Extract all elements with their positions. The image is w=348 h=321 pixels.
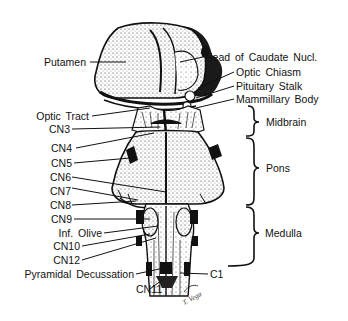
label-putamen: Putamen xyxy=(44,56,86,68)
pons-drawing xyxy=(112,131,224,208)
label-pyramidal-decussation: Pyramidal Decussation xyxy=(25,268,134,280)
brainstem-diagram: T. Vega Putamen Optic Tract CN3 CN4 CN5 … xyxy=(0,0,348,321)
label-cn7: CN7 xyxy=(50,185,71,197)
region-label-pons: Pons xyxy=(266,162,290,174)
label-cn4: CN4 xyxy=(51,142,72,154)
label-optic-chiasm: Optic Chiasm xyxy=(236,66,301,78)
label-cn5: CN5 xyxy=(51,157,72,169)
label-cn11: CN11 xyxy=(136,283,162,295)
label-cn6: CN6 xyxy=(50,171,71,183)
label-cn9: CN9 xyxy=(51,213,72,225)
label-optic-tract: Optic Tract xyxy=(36,110,89,122)
label-cn3: CN3 xyxy=(49,123,70,135)
basal-ganglia-drawing xyxy=(95,23,222,110)
label-c1: C1 xyxy=(210,268,223,280)
label-cn8: CN8 xyxy=(50,199,71,211)
label-cn10: CN10 xyxy=(53,240,80,252)
region-braces xyxy=(228,106,259,266)
label-head-of-caudate: Head of Caudate Nucl. xyxy=(205,51,317,63)
label-cn12: CN12 xyxy=(53,254,80,266)
region-label-medulla: Medulla xyxy=(265,227,302,239)
label-pituitary-stalk: Pituitary Stalk xyxy=(236,80,302,92)
label-inf-olive: Inf. Olive xyxy=(59,227,102,239)
region-label-midbrain: Midbrain xyxy=(266,116,306,128)
label-mammillary-body: Mammillary Body xyxy=(236,93,319,105)
